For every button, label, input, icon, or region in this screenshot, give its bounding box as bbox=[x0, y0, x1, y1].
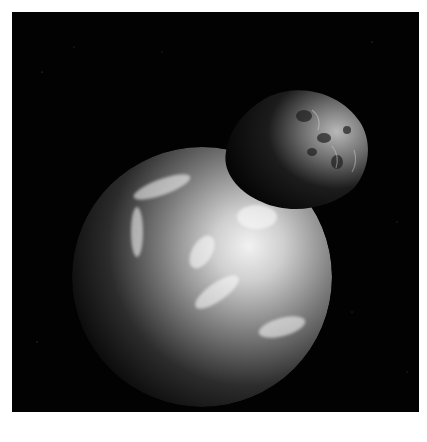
asteroid bbox=[225, 90, 368, 209]
scene-illustration bbox=[12, 12, 419, 412]
image-description: Grayscale render of Earth partially ecli… bbox=[0, 0, 1, 1]
space-scene bbox=[12, 12, 419, 412]
